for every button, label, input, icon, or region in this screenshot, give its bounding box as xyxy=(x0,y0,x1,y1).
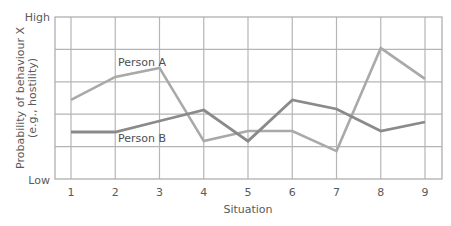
x-axis-tick-labels: 123456789 xyxy=(68,186,429,199)
x-tick-label: 7 xyxy=(333,186,340,199)
x-tick-label: 6 xyxy=(289,186,296,199)
x-tick-label: 4 xyxy=(200,186,207,199)
series-label-person-a: Person A xyxy=(118,56,166,69)
y-axis-title: Probability of behaviour X (e.g., hostil… xyxy=(14,27,39,169)
x-tick-label: 2 xyxy=(112,186,119,199)
x-tick-label: 1 xyxy=(68,186,75,199)
x-axis-title: Situation xyxy=(223,203,272,216)
vertical-gridlines xyxy=(71,17,425,179)
y-axis-low-label: Low xyxy=(28,174,50,187)
x-tick-label: 5 xyxy=(245,186,252,199)
y-axis-title-line2: (e.g., hostility) xyxy=(26,58,39,138)
x-tick-label: 9 xyxy=(422,186,429,199)
series-label-person-b: Person B xyxy=(118,132,166,145)
x-tick-label: 3 xyxy=(156,186,163,199)
y-axis-high-label: High xyxy=(25,11,50,24)
line-chart: High Low Probability of behaviour X (e.g… xyxy=(0,0,451,226)
x-tick-label: 8 xyxy=(377,186,384,199)
